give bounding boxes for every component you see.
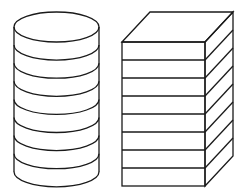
box-layer-line-side xyxy=(205,48,233,78)
stacked-shapes-diagram xyxy=(0,0,247,194)
box-layer-line-side xyxy=(205,84,233,114)
box-layer-line-side xyxy=(205,102,233,132)
box-layer-line-side xyxy=(205,66,233,96)
cylinder-layer-line xyxy=(14,118,99,133)
cylinder-layer-line xyxy=(14,45,99,60)
box-layer-line-side xyxy=(205,30,233,60)
box-layer-line-side xyxy=(205,138,233,168)
cylinder-layer-line xyxy=(14,172,99,187)
box-stack-icon xyxy=(122,12,233,186)
cylinder-layer-line xyxy=(14,81,99,96)
cylinder-layer-line xyxy=(14,154,99,169)
cylinder-top-ellipse xyxy=(14,12,99,42)
cylinder-stack-icon xyxy=(14,12,99,187)
box-top-face xyxy=(122,12,233,42)
cylinder-layer-line xyxy=(14,63,99,78)
box-layer-line-side xyxy=(205,120,233,150)
cylinder-layer-line xyxy=(14,136,99,151)
cylinder-layer-line xyxy=(14,99,99,114)
